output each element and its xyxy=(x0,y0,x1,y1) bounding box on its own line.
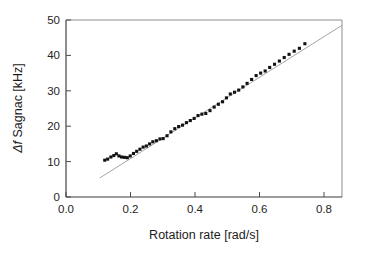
data-point xyxy=(189,119,192,122)
data-point xyxy=(246,82,249,85)
data-point xyxy=(283,56,286,59)
data-point xyxy=(237,89,240,92)
data-point xyxy=(106,158,109,161)
data-point xyxy=(148,142,151,145)
data-point xyxy=(165,134,168,137)
data-point xyxy=(173,127,176,130)
y-tick-label-50: 50 xyxy=(47,14,60,26)
data-point xyxy=(151,140,154,143)
data-point xyxy=(255,74,258,77)
y-axis-title-rest: Sagnac [kHz] xyxy=(11,63,25,141)
data-point xyxy=(208,109,211,112)
data-point xyxy=(132,152,135,155)
y-tick-label-0: 0 xyxy=(54,191,60,203)
data-point xyxy=(135,150,138,153)
data-point xyxy=(303,42,306,45)
data-point xyxy=(109,155,112,158)
data-point xyxy=(155,139,158,142)
x-tick-label-0.8: 0.8 xyxy=(316,203,332,215)
data-point xyxy=(200,113,203,116)
data-point xyxy=(142,146,145,149)
data-point xyxy=(221,100,224,103)
data-point xyxy=(293,50,296,53)
data-point xyxy=(129,154,132,157)
y-axis-title: Δf Sagnac [kHz] xyxy=(11,63,25,154)
data-point xyxy=(229,92,232,95)
data-point xyxy=(181,124,184,127)
data-point xyxy=(278,60,281,63)
data-point xyxy=(264,69,267,72)
y-tick-label-10: 10 xyxy=(47,156,60,168)
data-point xyxy=(169,130,172,133)
data-point xyxy=(138,148,141,151)
data-point xyxy=(268,66,271,69)
data-point xyxy=(158,137,161,140)
data-point xyxy=(177,125,180,128)
data-point xyxy=(204,112,207,115)
y-tick-label-20: 20 xyxy=(47,120,60,132)
data-point xyxy=(196,114,199,117)
data-point xyxy=(103,159,106,162)
data-point xyxy=(145,144,148,147)
data-point xyxy=(217,103,220,106)
data-point xyxy=(193,117,196,120)
data-point xyxy=(250,78,253,81)
x-axis-title: Rotation rate [rad/s] xyxy=(149,228,259,242)
x-tick-label-0.0: 0.0 xyxy=(58,203,74,215)
scatter-plot: 0 10 20 30 40 50 0.0 0.2 0.4 0.6 0.8 xyxy=(0,0,366,257)
data-point xyxy=(273,63,276,66)
data-point xyxy=(213,106,216,109)
data-point xyxy=(162,137,165,140)
data-point xyxy=(288,53,291,56)
x-tick-label-0.4: 0.4 xyxy=(187,203,204,215)
data-point xyxy=(126,156,129,159)
data-point xyxy=(233,91,236,94)
x-tick-label-0.2: 0.2 xyxy=(123,203,139,215)
x-tick-label-0.6: 0.6 xyxy=(252,203,268,215)
data-point xyxy=(241,85,244,88)
data-point xyxy=(123,156,126,159)
data-point xyxy=(259,72,262,75)
data-point xyxy=(298,47,301,50)
y-tick-label-30: 30 xyxy=(47,85,60,97)
data-point xyxy=(185,121,188,124)
y-tick-label-40: 40 xyxy=(47,49,60,61)
data-point xyxy=(225,96,228,99)
data-point xyxy=(120,155,123,158)
sagnac-figure: 0 10 20 30 40 50 0.0 0.2 0.4 0.6 0.8 xyxy=(0,0,366,257)
